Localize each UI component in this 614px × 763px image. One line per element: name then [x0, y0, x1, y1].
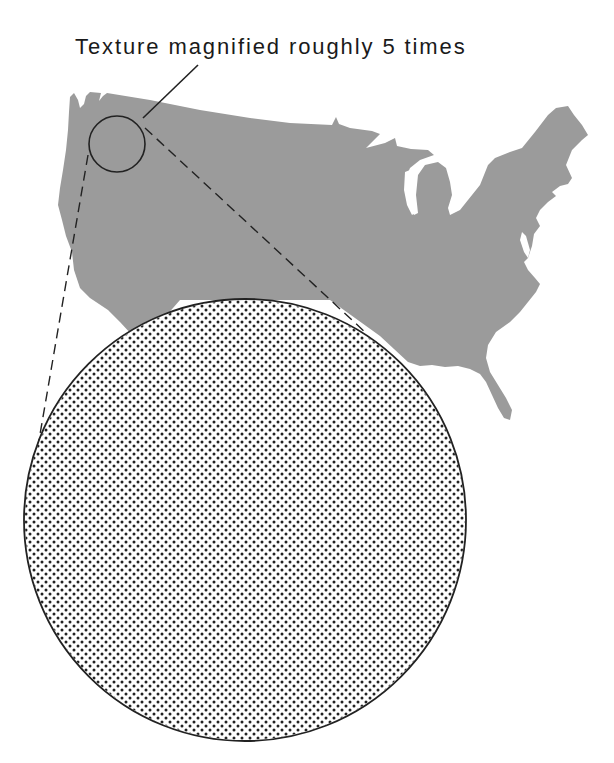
caption-text: Texture magnified roughly 5 times	[75, 34, 467, 60]
magnification-diagram	[0, 0, 614, 763]
magnified-texture-dots	[25, 300, 465, 740]
